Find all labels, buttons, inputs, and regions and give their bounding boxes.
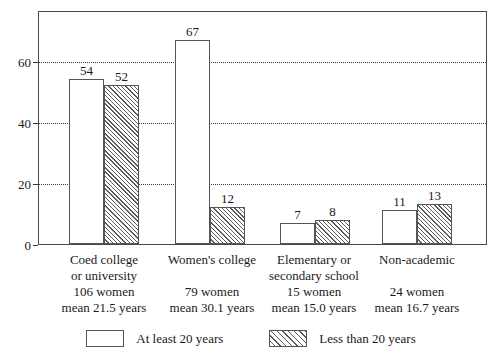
y-axis-tick-label: 20 — [0, 178, 31, 191]
gridline — [39, 62, 486, 63]
bar-value-label: 13 — [407, 189, 462, 202]
category-label-line — [322, 268, 502, 284]
category-label-line: 24 women — [322, 284, 502, 300]
bar-value-label: 52 — [94, 70, 149, 83]
y-axis-tick-label: 0 — [0, 239, 31, 252]
bar — [210, 207, 245, 244]
bar — [315, 220, 350, 244]
bar — [104, 85, 139, 244]
legend-label: Less than 20 years — [319, 332, 415, 345]
chart-legend: At least 20 yearsLess than 20 years — [0, 330, 502, 347]
y-axis-tick-mark — [33, 245, 38, 246]
y-axis-tick-label: 60 — [0, 56, 31, 69]
y-axis-tick-label: 40 — [0, 117, 31, 130]
category-label-line: Non-academic — [322, 252, 502, 268]
bar — [69, 79, 104, 244]
category-label: Non-academic 24 womenmean 16.7 years — [322, 252, 502, 316]
bar-chart-figure: 6040200 54526712781113 Coed collegeor un… — [0, 0, 502, 361]
bar — [417, 204, 452, 244]
bar — [175, 40, 210, 244]
category-label-line: mean 16.7 years — [322, 300, 502, 316]
legend-swatch-hatched — [269, 330, 307, 347]
plot-area: 54526712781113 — [38, 11, 487, 245]
legend-swatch-plain — [86, 330, 124, 347]
bar — [280, 223, 315, 244]
legend-entry[interactable]: Less than 20 years — [269, 330, 415, 347]
bar-value-label: 12 — [200, 192, 255, 205]
legend-label: At least 20 years — [136, 332, 223, 345]
bar-value-label: 67 — [165, 25, 220, 38]
legend-entry[interactable]: At least 20 years — [86, 330, 223, 347]
bar — [382, 210, 417, 244]
bar-value-label: 8 — [305, 205, 360, 218]
